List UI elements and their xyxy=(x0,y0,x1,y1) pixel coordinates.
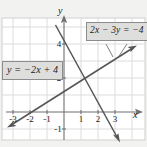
figure-container: y x -3 -2 -1 1 2 3 4 2 -1 y = −2x + 4 2x… xyxy=(0,0,147,147)
x-tick-label-neg3: -3 xyxy=(7,115,19,124)
x-tick-label-3: 3 xyxy=(110,115,120,124)
y-tick-label-4: 4 xyxy=(54,40,64,49)
y-tick-label-neg1: -1 xyxy=(52,125,64,134)
x-axis-label: x xyxy=(133,110,137,120)
equation-label-y-equals-minus-2x-plus-4: y = −2x + 4 xyxy=(2,61,63,80)
x-tick-label-neg1: -1 xyxy=(41,115,53,124)
x-tick-label-2: 2 xyxy=(93,115,103,124)
x-tick-label-neg2: -2 xyxy=(24,115,36,124)
equation-label-2x-minus-3y-equals-minus-4: 2x − 3y = −4 xyxy=(86,22,147,41)
x-tick-label-1: 1 xyxy=(76,115,86,124)
y-axis-label: y xyxy=(58,6,62,16)
